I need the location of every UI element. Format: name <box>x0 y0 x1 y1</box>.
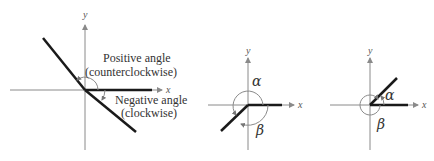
positive-angle-sublabel: (counterclockwise) <box>85 65 177 79</box>
positive-angle-label: Positive angle <box>103 51 171 65</box>
terminal-side-positive <box>43 38 85 90</box>
negative-angle-label: Negative angle <box>115 93 187 107</box>
angle-diagrams: x y Positive angle (counterclockwise) Ne… <box>0 0 434 161</box>
diagram-coterminal-1: x y α β <box>208 45 303 150</box>
negative-angle-arc-icon <box>102 90 105 100</box>
beta-label: β <box>376 116 385 132</box>
diagram-coterminal-2: x y α β <box>330 45 427 150</box>
alpha-label: α <box>385 87 395 103</box>
alpha-arc-icon <box>381 96 384 105</box>
x-axis-label: x <box>421 99 427 110</box>
y-axis-label: y <box>245 45 251 56</box>
y-axis-label: y <box>82 9 88 20</box>
beta-label: β <box>255 122 264 138</box>
negative-angle-sublabel: (clockwise) <box>121 106 177 120</box>
y-axis-label: y <box>367 45 373 56</box>
alpha-label: α <box>252 73 262 89</box>
terminal-side <box>221 105 248 131</box>
diagram-positive-negative: x y Positive angle (counterclockwise) Ne… <box>10 9 187 150</box>
x-axis-label: x <box>297 99 303 110</box>
